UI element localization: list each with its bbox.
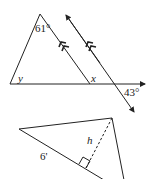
bottom-triangle (19, 118, 124, 179)
exterior-angle-label: 43° (124, 87, 139, 98)
apex-angle-label: 61° (35, 23, 50, 34)
geometry-figure: 61° y x 43° 6' h (0, 0, 153, 179)
inner-angle-label: x (91, 73, 96, 84)
left-angle-label: y (18, 73, 23, 84)
altitude-label: h (87, 135, 93, 146)
side-length-label: 6' (40, 151, 47, 162)
